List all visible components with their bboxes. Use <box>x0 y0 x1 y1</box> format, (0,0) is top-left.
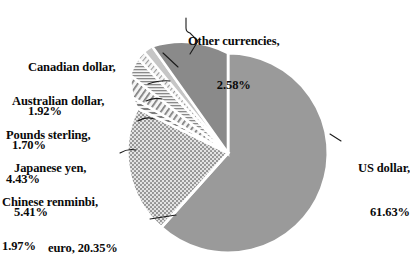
slice-label-euro-line1: euro, 20.35% <box>48 241 168 256</box>
slice-label-other-currencies-line2: 2.58% <box>188 78 280 93</box>
slice-label-euro: euro, 20.35% <box>48 211 168 267</box>
slice-label-other-currencies: Other currencies, 2.58% <box>188 4 280 122</box>
pie-chart: Other currencies, 2.58% Canadian dollar,… <box>0 0 410 267</box>
slice-label-us-dollar: US dollar, 61.63% <box>342 131 410 249</box>
slice-label-chinese-renminbi-line1: Chinese renminbi, <box>2 195 168 210</box>
slice-label-us-dollar-line1: US dollar, <box>342 161 410 176</box>
leader-line-us-dollar <box>330 134 341 141</box>
slice-label-us-dollar-line2: 61.63% <box>342 205 410 220</box>
slice-label-other-currencies-line1: Other currencies, <box>188 34 280 49</box>
